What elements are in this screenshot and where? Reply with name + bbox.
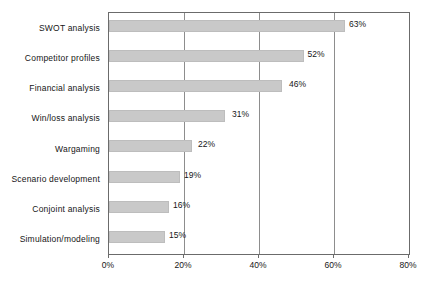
bar-chart: SWOT analysis Competitor profiles Financ… <box>0 0 429 284</box>
bar[interactable] <box>109 50 304 62</box>
bar[interactable] <box>109 140 192 152</box>
plot-area: 63% 52% 46% 31% 22% 19% <box>108 12 410 255</box>
bar[interactable] <box>109 231 165 243</box>
bar-value-label: 31% <box>232 108 249 120</box>
category-label: Financial analysis <box>0 83 100 93</box>
x-tick-label: 0% <box>88 260 128 270</box>
x-tick-mark <box>408 254 409 258</box>
x-tick-label: 20% <box>163 260 203 270</box>
bar-value-label: 63% <box>349 18 366 30</box>
x-tick-mark <box>258 254 259 258</box>
x-tick-label: 60% <box>313 260 353 270</box>
bar-value-label: 19% <box>184 169 201 181</box>
category-label: Competitor profiles <box>0 53 100 63</box>
bar-row: 46% <box>109 73 409 103</box>
category-label: SWOT analysis <box>0 23 100 33</box>
category-label: Simulation/modeling <box>0 234 100 244</box>
x-axis-tick-marks <box>108 254 410 259</box>
category-axis-labels: SWOT analysis Competitor profiles Financ… <box>0 12 104 253</box>
category-label: Conjoint analysis <box>0 204 100 214</box>
bar-value-label: 15% <box>169 229 186 241</box>
x-tick-mark <box>333 254 334 258</box>
bar[interactable] <box>109 171 180 183</box>
bar-value-label: 52% <box>308 48 325 60</box>
bar-row: 52% <box>109 43 409 73</box>
category-label: Scenario development <box>0 174 100 184</box>
bar-value-label: 16% <box>173 199 190 211</box>
bar-value-label: 22% <box>198 138 215 150</box>
bar-row: 15% <box>109 224 409 254</box>
x-tick-mark <box>108 254 109 258</box>
bar-value-label: 46% <box>289 78 306 90</box>
bar[interactable] <box>109 80 282 92</box>
bar[interactable] <box>109 110 225 122</box>
category-label: Win/loss analysis <box>0 113 100 123</box>
bar[interactable] <box>109 201 169 213</box>
bar-row: 22% <box>109 133 409 163</box>
bar-row: 16% <box>109 194 409 224</box>
category-label: Wargaming <box>0 144 100 154</box>
bar[interactable] <box>109 20 345 32</box>
bar-row: 63% <box>109 13 409 43</box>
x-tick-label: 80% <box>388 260 428 270</box>
bar-row: 19% <box>109 164 409 194</box>
x-tick-mark <box>183 254 184 258</box>
x-tick-label: 40% <box>238 260 278 270</box>
bar-row: 31% <box>109 103 409 133</box>
